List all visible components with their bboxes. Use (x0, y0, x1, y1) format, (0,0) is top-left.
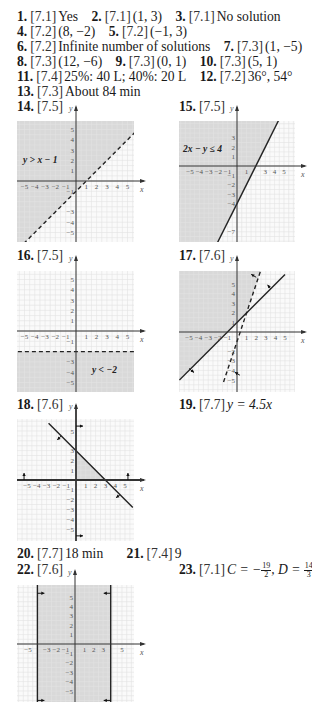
graph-18: yx−5−4−3−2−112345−5−4−3−2−11235 (17, 401, 148, 543)
svg-text:y: y (68, 254, 73, 263)
svg-text:−1: −1 (67, 338, 75, 346)
svg-text:−3: −3 (228, 191, 236, 199)
svg-text:−3: −3 (43, 482, 51, 490)
svg-text:5: 5 (71, 428, 75, 436)
section-ref: [7.3] (237, 39, 263, 54)
answer-value: (8, −2) (58, 24, 95, 39)
svg-text:5: 5 (123, 482, 127, 490)
section-ref: [7.4] (36, 69, 62, 84)
svg-text:4: 4 (273, 168, 277, 176)
answer-number: 11. (17, 69, 33, 84)
svg-text:1: 1 (85, 333, 89, 341)
svg-text:−5: −5 (186, 168, 194, 176)
svg-text:1: 1 (71, 467, 75, 475)
svg-text:−2: −2 (53, 482, 61, 490)
answer-line-1: 1.[7.1]Yes 2.[7.1](1, 3) 3.[7.1]No solut… (17, 9, 281, 24)
answer-line-3: 6.[7.2]Infinite number of solutions 7.[7… (17, 39, 302, 54)
svg-text:−4: −4 (67, 516, 75, 524)
answer-value: (−1, 3) (150, 24, 187, 39)
answer-number: 20. (17, 546, 34, 561)
svg-text:y: y (229, 254, 234, 263)
svg-text:1: 1 (232, 319, 236, 327)
answer-number: 5. (109, 24, 119, 39)
answer-number: 7. (224, 39, 234, 54)
answer-value: (0, 1) (157, 54, 186, 69)
answer-value: 36°, 54° (248, 69, 293, 84)
svg-text:5: 5 (71, 276, 75, 284)
answer-number: 4. (17, 24, 27, 39)
svg-text:5: 5 (70, 594, 74, 602)
answer-value: 9 (175, 546, 182, 561)
svg-text:5: 5 (232, 281, 236, 289)
svg-text:−1: −1 (228, 172, 236, 180)
answer-20-21-line: 20.[7.7]18 min 21.[7.4]9 (17, 546, 181, 561)
svg-text:−7: −7 (228, 228, 236, 236)
answer-value: (1, −5) (265, 39, 302, 54)
section-ref: [7.3] (220, 54, 246, 69)
svg-text:−2: −2 (67, 496, 75, 504)
svg-text:1: 1 (71, 167, 75, 175)
svg-text:4: 4 (71, 286, 75, 294)
svg-text:2: 2 (94, 482, 98, 490)
svg-text:−2: −2 (214, 334, 222, 342)
svg-text:2: 2 (254, 334, 258, 342)
answer-number: 1. (17, 9, 27, 24)
svg-text:3: 3 (104, 482, 108, 490)
graph-14: yx−5−4−3−2−112345−5−4−3−112345y > x − 1 (17, 103, 148, 244)
svg-text:−3: −3 (205, 168, 213, 176)
svg-text:4: 4 (113, 482, 117, 490)
svg-text:2: 2 (95, 183, 99, 191)
svg-text:1: 1 (232, 153, 236, 161)
answer-value: 18 min (65, 546, 103, 561)
fraction-c: 192 (261, 562, 271, 579)
svg-text:y: y (67, 568, 72, 577)
svg-text:4: 4 (115, 333, 119, 341)
svg-text:y: y (68, 104, 73, 113)
svg-text:2: 2 (71, 307, 75, 315)
svg-text:−2: −2 (214, 168, 222, 176)
graph-15: yx−5−4−3−2−11345−7−4−3−2−11232x − y ≤ 4 (179, 103, 309, 244)
svg-text:4: 4 (70, 603, 74, 611)
svg-text:3: 3 (232, 300, 236, 308)
svg-text:−4: −4 (31, 333, 39, 341)
svg-text:−4: −4 (67, 369, 75, 377)
svg-text:−5: −5 (67, 526, 75, 534)
svg-text:−5: −5 (23, 482, 31, 490)
svg-text:1: 1 (70, 631, 74, 639)
answer-line-2: 4.[7.2](8, −2) 5.[7.2](−1, 3) (17, 24, 187, 39)
svg-text:−3: −3 (67, 358, 75, 366)
svg-text:−4: −4 (228, 367, 236, 375)
section-ref: [7.1] (105, 9, 131, 24)
answer-line-5: 11.[7.4]25%: 40 L; 40%: 20 L 12.[7.2]36°… (17, 69, 293, 84)
svg-text:1: 1 (85, 183, 89, 191)
section-ref: [7.3] (30, 54, 56, 69)
svg-text:−5: −5 (67, 229, 75, 237)
answer-number: 9. (116, 54, 126, 69)
svg-text:−3: −3 (204, 334, 212, 342)
svg-text:2: 2 (71, 157, 75, 165)
svg-text:−3: −3 (43, 646, 51, 654)
section-ref: [7.1] (30, 9, 56, 24)
answer-value: Yes (58, 9, 78, 24)
section-ref: [7.3] (37, 84, 63, 99)
section-ref: [7.2] (220, 69, 246, 84)
graph-22: yx−5−3−2−11235−5−4−3−2−112345 (17, 567, 148, 702)
svg-text:−1: −1 (66, 650, 74, 658)
svg-text:1: 1 (245, 168, 249, 176)
svg-text:3: 3 (264, 334, 268, 342)
svg-text:3: 3 (71, 147, 75, 155)
answer-value: (1, 3) (133, 9, 162, 24)
svg-text:2: 2 (232, 309, 236, 317)
section-ref: [7.7] (37, 546, 63, 561)
svg-text:x: x (300, 336, 305, 345)
svg-text:−3: −3 (67, 208, 75, 216)
section-ref: [7.3] (129, 54, 155, 69)
answer-value: Infinite number of solutions (58, 39, 210, 54)
section-ref: [7.7] (199, 397, 225, 412)
svg-text:2: 2 (232, 144, 236, 152)
answer-value: (12, −6) (58, 54, 102, 69)
section-ref: [7.2] (30, 24, 56, 39)
svg-text:3: 3 (71, 297, 75, 305)
svg-text:x: x (139, 335, 144, 344)
svg-text:5: 5 (71, 126, 75, 134)
